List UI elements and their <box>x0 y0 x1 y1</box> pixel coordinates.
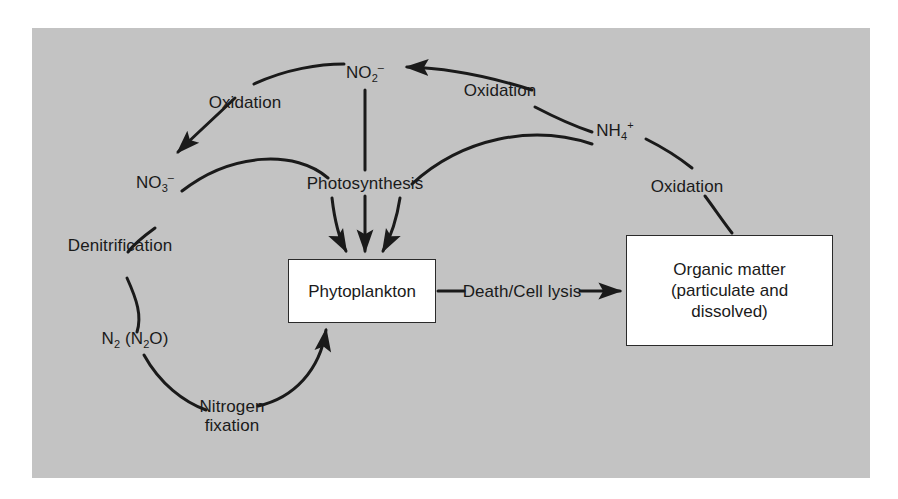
edge-oxidation-left-to-nitrite <box>254 64 344 84</box>
label-denitrification: Denitrification <box>68 236 173 255</box>
node-nitrite: NO2– <box>346 63 384 82</box>
label-oxidation-right: Oxidation <box>651 177 724 196</box>
organic-matter-line1: Organic matter <box>673 260 785 279</box>
label-photosynthesis: Photosynthesis <box>307 174 424 193</box>
label-oxidation-left: Oxidation <box>209 93 282 112</box>
ammonium-superscript: + <box>627 119 634 131</box>
node-nitrate: NO3– <box>136 173 174 192</box>
box-organic-matter-label: Organic matter (particulate and dissolve… <box>665 259 794 322</box>
edge-oxidation-right-to-ammonium <box>646 139 692 168</box>
organic-matter-line3: dissolved) <box>691 302 768 321</box>
label-nitrogen-fixation: Nitrogen fixation <box>177 397 287 435</box>
edge-nitrogen-fixation-to-phytoplankton <box>258 330 326 406</box>
nitrogen-fixation-line1: Nitrogen <box>199 397 264 416</box>
edge-denitrification-to-dinitrogen <box>127 278 139 332</box>
label-oxidation-top-right: Oxidation <box>464 81 537 100</box>
nitrate-superscript: – <box>168 171 174 183</box>
box-organic-matter: Organic matter (particulate and dissolve… <box>626 235 833 346</box>
nitrite-subscript: 2 <box>372 72 378 84</box>
diagram-panel: NO2– NO3– NH4+ N2 (N2O) Oxidation Oxidat… <box>32 28 870 478</box>
nitrogen-fixation-line2: fixation <box>205 416 260 435</box>
edge-ammonium-to-photosynthesis <box>412 135 592 184</box>
label-death-cell-lysis: Death/Cell lysis <box>463 282 582 301</box>
box-phytoplankton: Phytoplankton <box>288 259 436 323</box>
figure-root: NO2– NO3– NH4+ N2 (N2O) Oxidation Oxidat… <box>0 0 898 499</box>
nitrite-superscript: – <box>378 61 384 73</box>
ammonium-subscript: 4 <box>621 130 627 142</box>
edge-photosynthesis-arrow-right <box>383 198 400 251</box>
edge-photosynthesis-arrow-left <box>332 198 346 251</box>
edge-oxidation-topright-to-ammonium <box>535 107 592 132</box>
organic-matter-line2: (particulate and <box>671 281 788 300</box>
node-dinitrogen: N2 (N2O) <box>102 329 169 348</box>
box-phytoplankton-label: Phytoplankton <box>302 281 422 302</box>
nitrate-subscript: 3 <box>162 182 168 194</box>
edge-organic-matter-to-oxidation-right <box>705 196 732 233</box>
node-ammonium: NH4+ <box>596 121 634 140</box>
